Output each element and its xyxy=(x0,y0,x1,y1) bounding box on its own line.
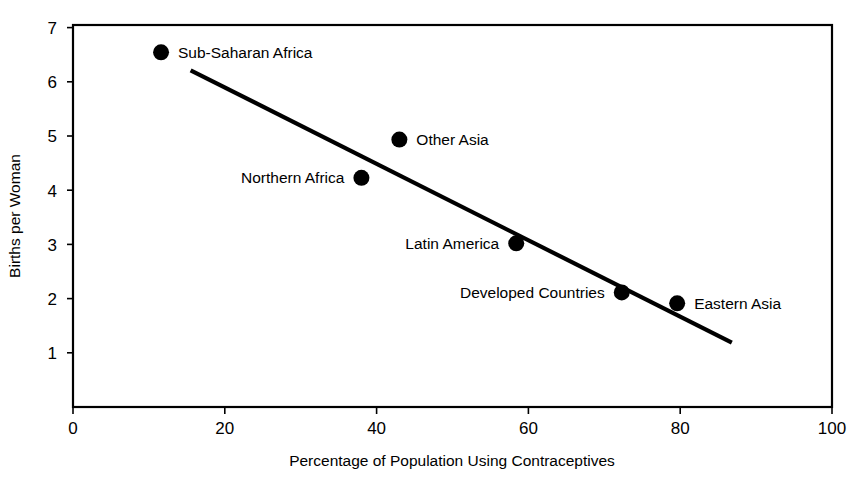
scatter-chart: 1 2 3 4 5 6 7 0 20 40 60 80 100 Sub-Saha… xyxy=(0,0,864,479)
y-tick-label: 4 xyxy=(48,182,57,201)
data-point-label: Sub-Saharan Africa xyxy=(178,44,313,61)
x-tick-label: 20 xyxy=(215,419,234,438)
x-tick-label: 0 xyxy=(68,419,77,438)
x-tick-label: 40 xyxy=(367,419,386,438)
y-tick-label: 5 xyxy=(48,127,57,146)
y-tick-label: 1 xyxy=(48,344,57,363)
data-point-label: Latin America xyxy=(405,235,499,252)
data-point-label: Northern Africa xyxy=(241,169,345,186)
x-axis-title: Percentage of Population Using Contracep… xyxy=(289,452,615,469)
x-tick-label: 100 xyxy=(818,419,846,438)
data-point-marker xyxy=(391,132,407,148)
plot-frame xyxy=(73,25,832,407)
x-tick-labels: 0 20 40 60 80 100 xyxy=(68,419,846,438)
data-point-marker xyxy=(153,44,169,60)
x-tick-label: 80 xyxy=(671,419,690,438)
data-point-marker xyxy=(669,295,685,311)
trend-line xyxy=(191,70,732,342)
data-point-label: Eastern Asia xyxy=(694,295,781,312)
chart-canvas: 1 2 3 4 5 6 7 0 20 40 60 80 100 Sub-Saha… xyxy=(0,0,864,479)
y-tick-label: 3 xyxy=(48,236,57,255)
x-tick-label: 60 xyxy=(519,419,538,438)
data-point-marker xyxy=(508,235,524,251)
y-axis-title: Births per Woman xyxy=(6,154,23,278)
data-points-group: Sub-Saharan AfricaOther AsiaNorthern Afr… xyxy=(153,44,782,312)
data-point-label: Developed Countries xyxy=(460,284,605,301)
data-point-marker xyxy=(614,284,630,300)
y-tick-label: 2 xyxy=(48,290,57,309)
y-tick-label: 6 xyxy=(48,73,57,92)
y-tick-labels: 1 2 3 4 5 6 7 xyxy=(48,19,57,363)
data-point-label: Other Asia xyxy=(416,131,489,148)
data-point-marker xyxy=(353,170,369,186)
y-tick-label: 7 xyxy=(48,19,57,38)
